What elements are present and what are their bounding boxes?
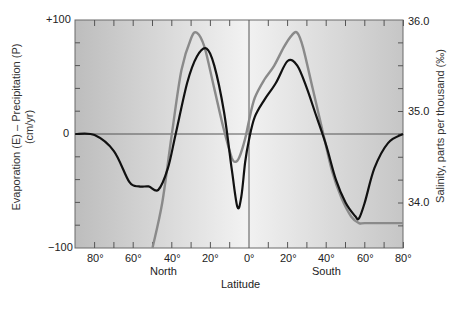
y-right-axis-title: Salinity, parts per thousand (‰)	[434, 41, 448, 211]
x-tick-label: 20°	[202, 252, 219, 264]
x-tick-label: 60°	[357, 252, 374, 264]
y-left-axis-title: Evaporation (E) – Precipitation (P) (cm/…	[10, 42, 38, 212]
x-tick-label: 80°	[87, 252, 104, 264]
y-left-tick-label: 0	[63, 127, 69, 139]
chart-canvas	[0, 0, 454, 309]
x-group-label-south: South	[312, 265, 341, 277]
y-right-tick-label: 35.0	[408, 105, 429, 117]
x-tick-label: 40°	[164, 252, 181, 264]
x-tick-label: 80°	[395, 252, 412, 264]
y-left-axis-title-line2: (cm/yr)	[23, 42, 36, 212]
y-left-tick-label: −100	[48, 241, 73, 253]
x-axis-title: Latitude	[221, 278, 260, 290]
y-left-axis-title-line1: Evaporation (E) – Precipitation (P)	[10, 42, 23, 212]
x-tick-label: 40°	[318, 252, 335, 264]
y-right-tick-label: 36.0	[408, 15, 429, 27]
x-tick-label: 0°	[244, 252, 255, 264]
x-tick-label: 60°	[125, 252, 142, 264]
y-left-tick-label: +100	[46, 13, 71, 25]
y-right-tick-label: 34.0	[408, 196, 429, 208]
x-tick-label: 20°	[280, 252, 297, 264]
x-group-label-north: North	[150, 265, 177, 277]
